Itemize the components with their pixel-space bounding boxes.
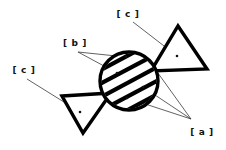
label-c-left: [ c ] bbox=[13, 65, 36, 75]
leader-dot-a-middle bbox=[142, 86, 145, 89]
leader-dot-b-upper bbox=[125, 56, 128, 59]
leader-dot-a-lower bbox=[126, 97, 129, 100]
label-c-top: [ c ] bbox=[117, 9, 140, 19]
diagram-svg: [ c ] [ b ] [ c ] [ a ] bbox=[0, 0, 226, 150]
label-a: [ a ] bbox=[190, 127, 214, 137]
diagram-canvas: [ c ] [ b ] [ c ] [ a ] bbox=[0, 0, 226, 150]
leader-dot-a-upper bbox=[149, 61, 152, 64]
leader-dot-c-top bbox=[176, 55, 179, 58]
label-b: [ b ] bbox=[63, 38, 87, 48]
leader-dot-c-left bbox=[79, 111, 82, 114]
leader-dot-b-lower bbox=[116, 72, 119, 75]
